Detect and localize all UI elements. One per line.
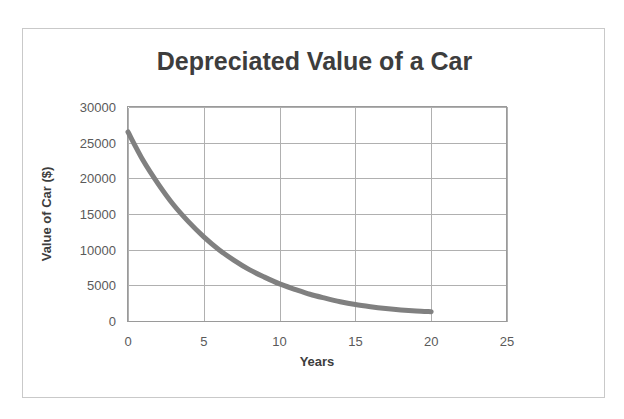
x-axis-tick-label: 15 (348, 334, 362, 349)
y-axis-tick-label: 10000 (80, 243, 116, 258)
y-axis-tick-label: 15000 (80, 207, 116, 222)
series-line-depreciated-value (128, 132, 431, 312)
x-axis-title: Years (300, 354, 335, 369)
y-axis-tick-label: 5000 (87, 278, 116, 293)
x-axis-tick-label: 10 (272, 334, 286, 349)
x-axis-tick-label: 25 (500, 334, 514, 349)
y-axis-tick-label: 30000 (80, 100, 116, 115)
chart-plot-svg: 050001000015000200002500030000 051015202… (23, 29, 606, 399)
y-axis-tick-labels: 050001000015000200002500030000 (80, 100, 116, 329)
x-axis-tick-label: 5 (200, 334, 207, 349)
x-axis-tick-label: 20 (424, 334, 438, 349)
y-axis-title: Value of Car ($) (39, 167, 54, 262)
gridlines-group (129, 108, 508, 322)
figure-frame: Depreciated Value of a Car 0500010000150… (22, 28, 605, 398)
x-axis-tick-labels: 0510152025 (124, 334, 514, 349)
y-axis-tick-label: 25000 (80, 136, 116, 151)
x-axis-tick-label: 0 (124, 334, 131, 349)
y-axis-tick-label: 20000 (80, 171, 116, 186)
y-axis-tick-label: 0 (109, 314, 116, 329)
